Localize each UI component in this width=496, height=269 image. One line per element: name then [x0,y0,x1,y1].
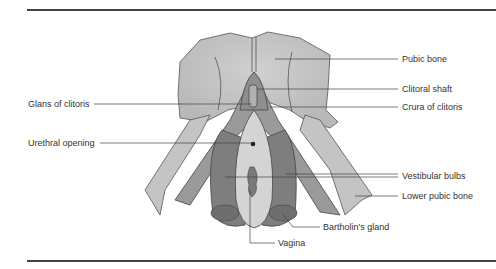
label-bartholins-gland: Bartholin's gland [323,222,389,232]
anatomy-illustration [0,0,496,269]
urethral-opening-dot [251,142,256,147]
vaginal-opening-shape [248,167,257,197]
label-urethral-opening: Urethral opening [28,138,95,148]
lower-pubic-bone-right [300,115,372,215]
label-pubic-bone: Pubic bone [402,54,447,64]
label-lower-pubic-bone: Lower pubic bone [402,191,473,201]
label-crura-of-clitoris: Crura of clitoris [402,102,463,112]
label-clitoral-shaft: Clitoral shaft [402,84,452,94]
label-vagina: Vagina [278,238,305,248]
label-glans-of-clitoris: Glans of clitoris [28,99,90,109]
label-vestibular-bulbs: Vestibular bulbs [402,171,466,181]
